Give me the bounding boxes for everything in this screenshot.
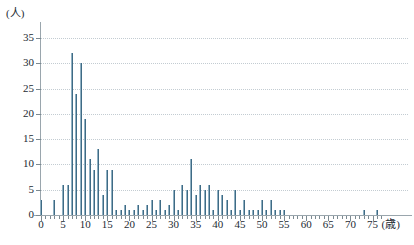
- bar: [93, 170, 95, 216]
- bar: [97, 149, 99, 215]
- bar: [40, 200, 42, 215]
- bar: [261, 200, 263, 215]
- x-tick-minor: [249, 216, 250, 219]
- bar: [89, 159, 91, 215]
- gridline: [41, 63, 408, 64]
- bar: [75, 94, 77, 215]
- plot-area: [41, 38, 408, 215]
- x-tick-label: 65: [323, 219, 334, 230]
- x-tick-label: 60: [301, 219, 312, 230]
- gridline: [41, 190, 408, 191]
- bar: [111, 170, 113, 216]
- y-tick-label: 15: [23, 133, 34, 144]
- bar: [128, 210, 130, 215]
- bar: [243, 200, 245, 215]
- y-tick-label: 5: [29, 184, 35, 195]
- x-tick-minor: [94, 216, 95, 219]
- x-tick-label: 30: [168, 219, 179, 230]
- bar: [230, 210, 232, 215]
- x-tick-label: 55: [279, 219, 290, 230]
- bar: [363, 210, 365, 215]
- x-tick-label: 10: [80, 219, 91, 230]
- x-tick-label: 0: [38, 219, 44, 230]
- bar: [124, 205, 126, 215]
- y-axis-unit-label: (人): [6, 4, 24, 20]
- x-tick-minor: [205, 216, 206, 219]
- y-tick-label: 25: [23, 83, 34, 94]
- y-tick-label: 35: [23, 32, 34, 43]
- y-tick-label: 30: [23, 57, 34, 68]
- chart-root: (人) 05101520253035 051015202530354045505…: [0, 0, 414, 245]
- bar: [279, 210, 281, 215]
- x-tick-minor: [138, 216, 139, 219]
- x-tick-minor: [54, 216, 55, 219]
- x-tick-minor: [68, 216, 69, 219]
- bar: [53, 200, 55, 215]
- bar: [84, 119, 86, 215]
- bar: [173, 190, 175, 215]
- bar: [120, 210, 122, 215]
- bar: [221, 195, 223, 215]
- x-tick-minor: [116, 216, 117, 219]
- bar: [142, 210, 144, 215]
- bar: [168, 205, 170, 215]
- x-tick-minor: [342, 216, 343, 219]
- x-tick-label: 45: [234, 219, 245, 230]
- bar: [164, 210, 166, 215]
- bar: [177, 210, 179, 215]
- bar: [115, 210, 117, 215]
- bar: [62, 185, 64, 215]
- bar: [159, 200, 161, 215]
- x-tick-label: 70: [345, 219, 356, 230]
- bar: [133, 210, 135, 215]
- x-tick-minor: [98, 216, 99, 219]
- x-tick-minor: [231, 216, 232, 219]
- x-tick-label: 40: [212, 219, 223, 230]
- bar: [265, 210, 267, 215]
- bar: [239, 210, 241, 215]
- bar: [199, 185, 201, 215]
- bar: [71, 53, 73, 215]
- x-tick-minor: [143, 216, 144, 219]
- x-tick-minor: [121, 216, 122, 219]
- bar: [270, 200, 272, 215]
- x-tick-minor: [364, 216, 365, 219]
- x-tick-minor: [297, 216, 298, 219]
- bar: [181, 185, 183, 215]
- x-tick-minor: [227, 216, 228, 219]
- bar: [208, 185, 210, 215]
- x-tick-minor: [337, 216, 338, 219]
- x-tick-label: 50: [257, 219, 268, 230]
- x-tick-label: 5: [60, 219, 66, 230]
- bar: [257, 210, 259, 215]
- x-tick-minor: [293, 216, 294, 219]
- x-tick-minor: [359, 216, 360, 219]
- x-tick-label: 75: [367, 219, 378, 230]
- x-tick-minor: [271, 216, 272, 219]
- x-tick-minor: [76, 216, 77, 219]
- bar: [204, 190, 206, 215]
- gridline: [41, 114, 408, 115]
- x-tick-minor: [72, 216, 73, 219]
- gridline: [41, 38, 408, 39]
- gridline: [41, 139, 408, 140]
- y-tick-label: 10: [23, 158, 34, 169]
- bar: [217, 190, 219, 215]
- bar: [102, 195, 104, 215]
- x-tick-minor: [45, 216, 46, 219]
- y-tick-label: 20: [23, 108, 34, 119]
- bar: [283, 210, 285, 215]
- bar: [151, 200, 153, 215]
- bar: [67, 185, 69, 215]
- gridline: [41, 89, 408, 90]
- bar: [80, 63, 82, 215]
- bar: [146, 205, 148, 215]
- bar: [376, 210, 378, 215]
- x-tick-minor: [209, 216, 210, 219]
- x-tick-minor: [182, 216, 183, 219]
- x-tick-label: 25: [146, 219, 157, 230]
- x-tick-label: 15: [102, 219, 113, 230]
- bar: [186, 190, 188, 215]
- bar: [190, 159, 192, 215]
- bar: [234, 190, 236, 215]
